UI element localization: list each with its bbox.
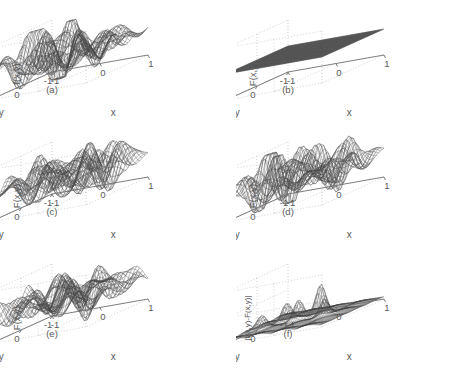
surface-panel-d: 200-20-10110-1xyF(x,y)(d) [236,122,472,244]
x-tick-label: 0 [336,311,341,322]
y-axis-label: y [0,107,4,118]
x-tick-label: 1 [384,58,389,69]
y-tick-label: 0 [14,89,19,100]
mesh-surface [236,136,384,213]
surface-panel-f: 20100-10110-1xy|f(x,y)-F(x,y)|(f) [236,244,472,366]
panel-identifier: (b) [282,84,294,95]
x-tick-label: 0 [336,189,341,200]
axes [0,48,148,100]
panel-identifier: (d) [282,206,294,217]
x-tick-label: 0 [100,189,105,200]
x-tick-label: 1 [384,302,389,313]
y-axis-label: y [236,107,240,118]
z-axis-label: |f(x,y)-F(x,y)| [243,295,252,340]
y-axis-ticks: 10-1 [0,194,52,236]
x-axis-label: x [347,107,352,118]
z-axis-label: F(x,y) [247,62,258,86]
x-tick-label: 1 [148,58,153,69]
y-axis-ticks: 10-1 [0,72,52,114]
y-axis-label: y [0,229,4,240]
x-tick-label: 1 [148,180,153,191]
x-tick-label: 0 [100,67,105,78]
mesh-surface [236,29,384,74]
x-axis-label: x [347,229,352,240]
x-tick-label: 0 [100,311,105,322]
panel-identifier: (a) [46,84,58,95]
y-tick-label: 0 [14,211,19,222]
y-axis-ticks: 10-1 [236,72,288,114]
y-tick-label: 0 [14,333,19,344]
x-axis-label: x [111,107,116,118]
panel-identifier: (e) [46,328,58,339]
y-axis-label: y [0,351,4,362]
z-axis-label: F(x,y) [11,306,22,330]
y-axis-ticks: 10-1 [236,194,288,236]
mesh-surface [0,141,148,205]
mesh-surface [0,266,148,327]
grid-lines [236,264,384,344]
surface-panel-e: 200-20-10110-1xyF(x,y)(e) [0,244,236,366]
surface-panel-c: 200-20-10110-1xyF(x,y)(c) [0,122,236,244]
x-tick-label: 0 [336,67,341,78]
x-axis-ticks: -101 [51,299,154,330]
x-axis-label: x [111,229,116,240]
y-axis-label: y [236,351,240,362]
x-axis-label: x [347,351,352,362]
y-axis-label: y [236,229,240,240]
surface-panel-b: 200-20-10110-1xyF(x,y)(b) [236,0,472,122]
z-axis-label: F(x,y) [11,184,22,208]
x-tick-label: 1 [384,180,389,191]
z-axis-label: f(x,y) [11,63,22,84]
y-tick-label: 0 [250,89,255,100]
panel-identifier: (c) [46,206,57,217]
panel-identifier: (f) [284,328,293,339]
y-tick-label: 0 [250,211,255,222]
x-axis-label: x [111,351,116,362]
surface-panel-a: 200-20-10110-1xyf(x,y)(a) [0,0,236,122]
x-tick-label: 1 [148,302,153,313]
figure-canvas: 200-20-10110-1xyf(x,y)(a)200-20-10110-1x… [0,0,473,368]
z-axis-label: F(x,y) [247,184,258,208]
axes [0,170,148,222]
mesh-surface [0,19,148,89]
